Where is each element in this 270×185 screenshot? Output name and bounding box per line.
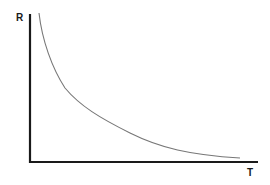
y-axis-label: R: [16, 13, 23, 23]
x-axis-label: T: [247, 168, 253, 178]
decay-curve: [39, 13, 240, 158]
r-vs-t-diagram: [0, 0, 270, 185]
